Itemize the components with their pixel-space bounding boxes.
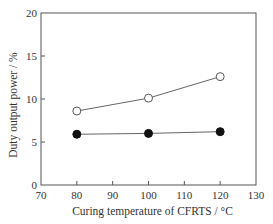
x-tick-label: 70 [36, 189, 48, 201]
x-tick-label: 80 [71, 189, 83, 201]
filled-circle-marker [73, 130, 81, 138]
open-circle-marker [73, 107, 81, 115]
open-circle-marker [145, 94, 153, 102]
filled-circle-marker [145, 129, 153, 137]
x-tick-label: 120 [212, 189, 229, 201]
filled-circle-marker [216, 128, 224, 136]
y-tick-label: 10 [26, 93, 38, 105]
x-tick-label: 90 [107, 189, 119, 201]
y-axis-label: Duty output power / % [7, 52, 20, 158]
chart: 70809010011012013005101520Curing tempera… [0, 0, 273, 224]
open-circle-marker [216, 73, 224, 81]
x-tick-label: 100 [140, 189, 157, 201]
y-tick-label: 15 [26, 50, 38, 62]
x-tick-label: 130 [248, 189, 265, 201]
y-tick-label: 20 [26, 7, 38, 19]
y-tick-label: 5 [32, 136, 38, 148]
x-tick-label: 110 [176, 189, 193, 201]
x-axis-label: Curing temperature of CFRTS / °C [72, 205, 233, 218]
y-tick-label: 0 [32, 179, 38, 191]
line-chart: 70809010011012013005101520Curing tempera… [0, 0, 273, 224]
